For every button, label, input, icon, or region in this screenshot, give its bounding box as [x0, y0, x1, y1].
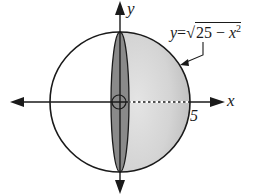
- radicand-exponent: 2: [236, 23, 241, 34]
- x-axis-label: x: [227, 92, 235, 109]
- solid-of-revolution-figure: y x 5 y=√25 − x2: [0, 0, 271, 195]
- x-axis-right-arrow-icon: [210, 97, 225, 107]
- x-axis-left-arrow-icon: [10, 97, 24, 107]
- radius-tick-label: 5: [190, 108, 198, 124]
- curve-equation-label: y=√25 − x2: [170, 22, 241, 41]
- equation-equals: =: [177, 24, 186, 41]
- y-axis-up-arrow-icon: [115, 1, 125, 15]
- curve-label-leader-line: [184, 42, 203, 63]
- leader-arrowhead-icon: [180, 59, 189, 66]
- y-axis-down-arrow-icon: [115, 180, 125, 194]
- y-axis-label: y: [127, 0, 135, 17]
- radical-sign-icon: √: [186, 24, 195, 41]
- radicand-variable: x: [229, 24, 236, 41]
- radicand-prefix: 25 −: [196, 24, 229, 41]
- radicand: 25 − x2: [195, 22, 241, 41]
